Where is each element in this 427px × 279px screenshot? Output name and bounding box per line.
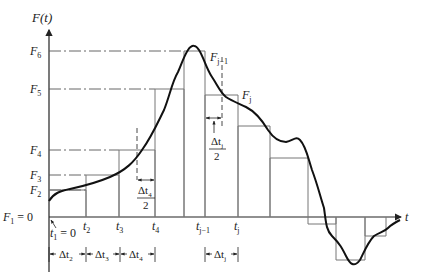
label-f6: F6 bbox=[29, 44, 41, 60]
rect-t6 bbox=[184, 51, 205, 217]
svg-text:2: 2 bbox=[143, 199, 149, 211]
label-f5: F5 bbox=[29, 82, 41, 98]
rect-neg1 bbox=[308, 217, 336, 224]
tick-tj-1: tj−1 bbox=[196, 219, 210, 235]
function-curve bbox=[49, 46, 400, 264]
interval-dt4: Δt4 bbox=[129, 248, 143, 263]
label-fj: Fj bbox=[241, 88, 252, 104]
interval-dt2: Δt2 bbox=[59, 248, 73, 263]
interval-dt3: Δt3 bbox=[95, 248, 109, 263]
step-approximation-diagram: F(t) t F6 F5 F4 F3 F2 F1 = 0 t1 = 0 t2 t… bbox=[0, 0, 427, 279]
interval-dtj: Δtj bbox=[214, 248, 226, 263]
fraction-dt4-half: Δt4 2 bbox=[137, 184, 155, 211]
level-guides bbox=[49, 51, 184, 190]
tick-t3: t3 bbox=[116, 219, 123, 235]
x-axis-label: t bbox=[405, 210, 409, 224]
x-tick-labels: t1 = 0 t2 t3 t4 tj−1 tj bbox=[50, 219, 240, 242]
label-f1: F1 = 0 bbox=[2, 210, 33, 226]
interval-brackets bbox=[49, 247, 238, 262]
tick-t2: t2 bbox=[83, 219, 90, 235]
label-f2: F2 bbox=[29, 183, 41, 199]
rect-neg2 bbox=[336, 217, 365, 260]
label-f3: F3 bbox=[29, 168, 41, 184]
y-axis-label: F(t) bbox=[31, 10, 52, 25]
y-level-labels: F6 F5 F4 F3 F2 F1 = 0 bbox=[2, 44, 41, 226]
svg-text:Δt4: Δt4 bbox=[138, 184, 152, 199]
axes bbox=[49, 30, 401, 272]
tick-t1: t1 = 0 bbox=[50, 226, 76, 242]
rect-t5 bbox=[155, 89, 184, 217]
rect-tj bbox=[205, 95, 238, 217]
interval-labels: Δt2 Δt3 Δt4 Δtj bbox=[59, 248, 226, 263]
midpoint-lines bbox=[137, 57, 222, 180]
rect-t3 bbox=[86, 175, 119, 217]
rect-tj1 bbox=[238, 126, 270, 217]
tick-tj: tj bbox=[234, 219, 240, 235]
svg-text:Δtj: Δtj bbox=[211, 135, 223, 150]
diagram-canvas: F(t) t F6 F5 F4 F3 F2 F1 = 0 t1 = 0 t2 t… bbox=[0, 0, 427, 279]
svg-text:2: 2 bbox=[214, 150, 220, 162]
label-f4: F4 bbox=[29, 143, 41, 159]
rect-neg3 bbox=[365, 217, 386, 236]
half-step-arrows bbox=[138, 118, 221, 180]
rect-tj2 bbox=[270, 158, 308, 217]
fraction-dtj-half: Δtj 2 bbox=[209, 135, 226, 162]
tick-t4: t4 bbox=[152, 219, 159, 235]
label-fj-1: Fj−1 bbox=[209, 50, 228, 66]
